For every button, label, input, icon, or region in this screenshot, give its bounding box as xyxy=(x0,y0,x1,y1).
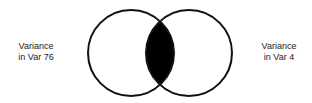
right-set-label: Variance in Var 4 xyxy=(254,41,304,63)
right-label-line1: Variance xyxy=(254,41,304,52)
right-label-line2: in Var 4 xyxy=(254,52,304,63)
